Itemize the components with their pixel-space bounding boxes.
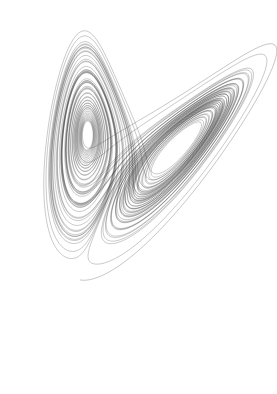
plot-background	[0, 0, 277, 394]
attractor-plot-canvas	[0, 0, 277, 394]
lorenz-attractor-figure	[0, 0, 277, 394]
